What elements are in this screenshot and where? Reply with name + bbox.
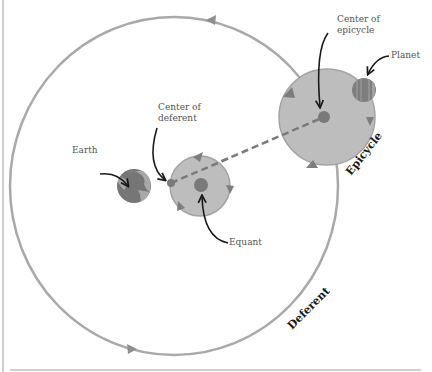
deferent-arrow-top-icon (206, 15, 216, 25)
planet-label: Planet (391, 50, 420, 60)
equant-dot (194, 178, 208, 192)
earth-label: Earth (72, 145, 98, 155)
epicycle-diagram: Earth Center of deferent Equant Center o… (0, 0, 432, 372)
planet-pointer-arrow (368, 56, 389, 74)
deferent-label: Deferent (285, 284, 333, 332)
equant-label: Equant (229, 237, 262, 247)
center-of-epicycle-label-line2: epicycle (337, 25, 374, 35)
deferent-arrow-bottom-icon (127, 344, 137, 354)
center-of-deferent-dot (167, 179, 175, 187)
center-of-epicycle-dot (318, 111, 330, 123)
center-of-deferent-label-line1: Center of (158, 102, 202, 112)
earth-icon (117, 169, 152, 204)
center-of-deferent-label-line2: deferent (158, 113, 197, 123)
planet-icon (352, 78, 376, 102)
center-of-deferent-pointer-arrow (153, 128, 165, 180)
center-of-epicycle-label-line1: Center of (337, 14, 381, 24)
